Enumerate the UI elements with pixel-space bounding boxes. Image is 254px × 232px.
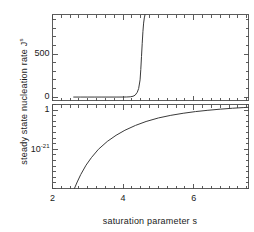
x-tick-label: 2 <box>43 193 63 203</box>
y-tick-label-upper: 0 <box>10 91 50 101</box>
y-tick-label-lower-exponent: -21 <box>41 143 50 149</box>
y-axis-label-superscript: s <box>18 38 24 41</box>
y-axis-label: steady state nucleation rate Js <box>18 17 29 187</box>
nucleation-rate-figure: steady state nucleation rate Js saturati… <box>0 0 254 232</box>
x-tick-label: 6 <box>184 193 204 203</box>
y-tick-label-lower: 10-21 <box>10 143 50 154</box>
x-axis-label: saturation parameter s <box>52 216 248 226</box>
y-tick-label-upper: 500 <box>10 48 50 58</box>
x-tick-label: 4 <box>113 193 133 203</box>
y-tick-label-lower: 1 <box>10 104 50 114</box>
